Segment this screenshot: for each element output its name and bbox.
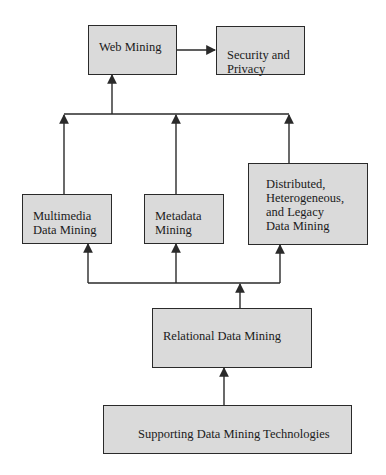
relational-label: Relational Data Mining (163, 329, 281, 343)
supporting-label: Supporting Data Mining Technologies (138, 427, 330, 441)
security-privacy-box: Security and Privacy (216, 26, 305, 75)
metadata-box: Metadata Mining (144, 194, 224, 244)
distributed-box: Distributed, Heterogeneous, and Legacy D… (248, 163, 368, 245)
web-mining-label: Web Mining (99, 40, 162, 54)
relational-box: Relational Data Mining (152, 308, 312, 368)
security-privacy-label: Security and Privacy (227, 48, 290, 76)
web-mining-box: Web Mining (88, 25, 177, 75)
supporting-box: Supporting Data Mining Technologies (103, 405, 352, 454)
distributed-label: Distributed, Heterogeneous, and Legacy D… (266, 177, 344, 233)
multimedia-label: Multimedia Data Mining (33, 209, 97, 237)
multimedia-box: Multimedia Data Mining (22, 194, 112, 244)
metadata-label: Metadata Mining (155, 209, 202, 237)
